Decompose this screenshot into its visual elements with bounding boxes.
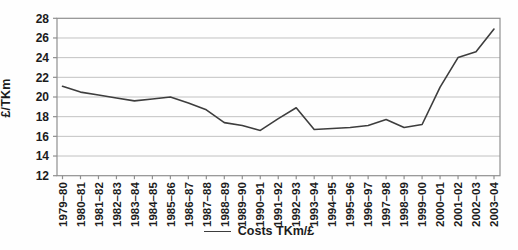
x-tick-label: 1999–00 xyxy=(416,182,428,227)
x-tick-label: 1997–98 xyxy=(380,182,392,227)
x-tick-label: 2003–04 xyxy=(488,182,500,227)
x-tick-label: 1995–96 xyxy=(344,182,356,227)
y-tick-label: 12 xyxy=(36,169,50,183)
x-tick-label: 1988–89 xyxy=(219,182,231,227)
x-tick-label: 1989–90 xyxy=(236,182,248,227)
y-tick-label: 26 xyxy=(36,31,50,45)
line-chart-canvas: 1214161820222426281979–801980–811981–821… xyxy=(0,0,518,250)
x-tick-label: 1998–99 xyxy=(398,182,410,227)
x-tick-label: 1979–80 xyxy=(57,182,69,227)
x-tick-label: 1980–81 xyxy=(75,182,87,227)
y-tick-label: 24 xyxy=(36,51,50,65)
x-tick-label: 1984–85 xyxy=(147,182,159,227)
x-tick-label: 1986–87 xyxy=(183,182,195,227)
y-tick-label: 14 xyxy=(36,149,50,163)
x-tick-label: 2001–02 xyxy=(452,182,464,227)
x-tick-label: 2000–01 xyxy=(434,182,446,227)
legend-label: Costs TKm/£ xyxy=(238,224,314,238)
x-tick-label: 1992–93 xyxy=(290,182,302,227)
y-tick-label: 20 xyxy=(36,90,50,104)
legend: Costs TKm/£ xyxy=(0,224,518,238)
legend-line-marker xyxy=(204,231,231,232)
chart-figure: 1214161820222426281979–801980–811981–821… xyxy=(0,0,518,250)
x-tick-label: 1981–82 xyxy=(93,182,105,227)
y-tick-label: 22 xyxy=(36,71,50,85)
data-series-line xyxy=(63,29,495,130)
x-tick-label: 2002–03 xyxy=(470,182,482,227)
x-tick-label: 1982–83 xyxy=(111,182,123,227)
x-tick-label: 1987–88 xyxy=(201,182,213,227)
y-axis-title: £/TKm xyxy=(0,61,13,135)
x-tick-label: 1993–94 xyxy=(308,182,320,227)
x-tick-label: 1985–86 xyxy=(165,182,177,227)
y-tick-label: 16 xyxy=(36,130,50,144)
x-tick-label: 1983–84 xyxy=(129,182,141,227)
x-tick-label: 1990–91 xyxy=(254,182,266,227)
x-tick-label: 1991–92 xyxy=(272,182,284,227)
x-tick-label: 1996–97 xyxy=(362,182,374,227)
y-tick-label: 28 xyxy=(36,12,50,26)
y-tick-label: 18 xyxy=(36,110,50,124)
x-tick-label: 1994–95 xyxy=(326,182,338,227)
